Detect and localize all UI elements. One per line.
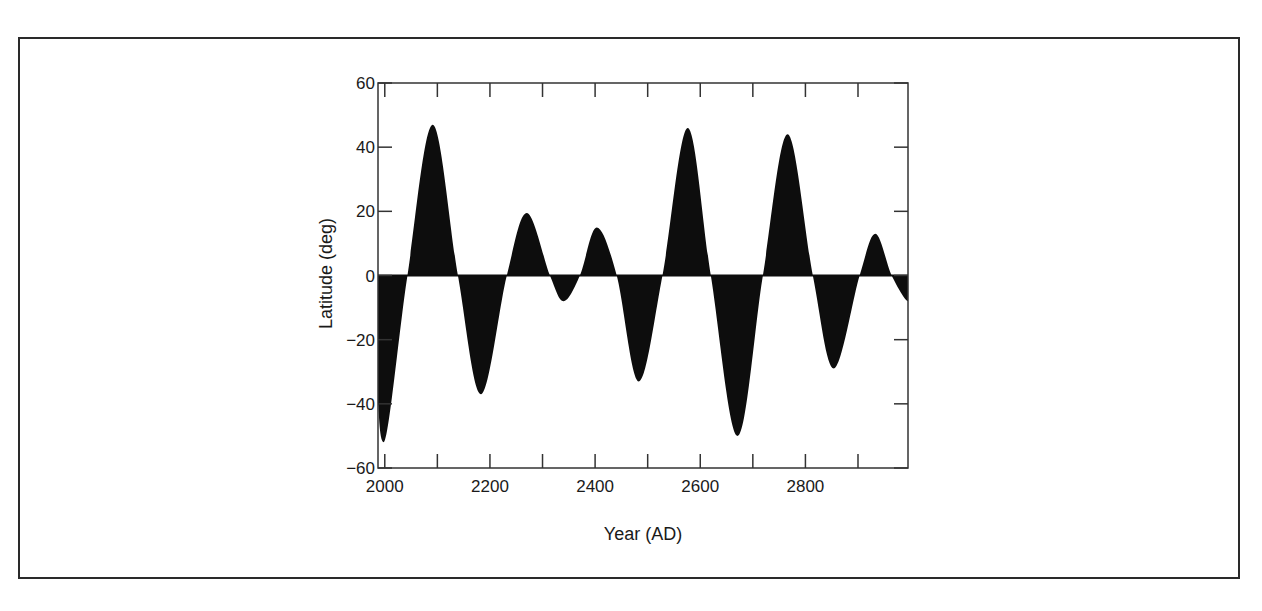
y-tick-label: −20 xyxy=(346,331,375,350)
y-tick-label: 40 xyxy=(356,138,375,157)
latitude-curve-area xyxy=(378,125,908,443)
x-axis-title: Year (AD) xyxy=(604,524,682,544)
y-tick-label: −40 xyxy=(346,395,375,414)
x-tick-label: 2200 xyxy=(471,477,509,496)
x-tick-label: 2600 xyxy=(681,477,719,496)
y-axis-title: Latitude (deg) xyxy=(316,218,336,329)
y-tick-label: 60 xyxy=(356,74,375,93)
latitude-chart: 200022002400260028006040200−20−40−60 Yea… xyxy=(0,0,1262,611)
latitude-area-fill xyxy=(378,125,908,443)
y-tick-label: −60 xyxy=(346,459,375,478)
x-tick-label: 2000 xyxy=(366,477,404,496)
y-tick-label: 20 xyxy=(356,202,375,221)
y-tick-label: 0 xyxy=(366,267,375,286)
x-tick-label: 2800 xyxy=(787,477,825,496)
x-tick-label: 2400 xyxy=(576,477,614,496)
